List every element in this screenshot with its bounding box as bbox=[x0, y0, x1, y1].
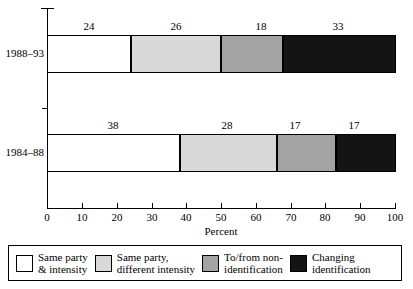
x-axis-tick-80 bbox=[325, 203, 326, 209]
x-axis-tick-20 bbox=[117, 203, 118, 209]
legend-label-line2: & intensity bbox=[38, 263, 88, 276]
x-axis-label-40: 40 bbox=[166, 211, 206, 224]
value-label-row0-seg3: 33 bbox=[308, 20, 368, 33]
legend-label-line1: Changing bbox=[312, 251, 355, 263]
legend-label-same-party-different-intensity: Same party, different intensity bbox=[117, 251, 195, 276]
x-axis-label-80: 80 bbox=[305, 211, 345, 224]
x-axis-tick-30 bbox=[152, 203, 153, 209]
legend-item-changing-identification: Changing identification bbox=[283, 251, 371, 276]
value-label-row0-seg2: 18 bbox=[231, 20, 291, 33]
legend-swatch-black-icon bbox=[290, 255, 307, 272]
legend-label-line1: Same party bbox=[38, 251, 88, 263]
value-label-row1-seg2: 17 bbox=[265, 119, 325, 132]
bar-segment-same-party-different-intensity bbox=[180, 134, 277, 172]
x-axis-tick-100 bbox=[395, 203, 396, 209]
bar-segment-to-from-non-identification bbox=[221, 35, 283, 73]
bar-segment-same-party-different-intensity bbox=[131, 35, 221, 73]
legend-label-changing-identification: Changing identification bbox=[312, 251, 371, 276]
bar-segment-changing-identification bbox=[283, 35, 396, 73]
bar-segment-same-party-intensity bbox=[47, 134, 180, 172]
legend-label-line1: Same party, bbox=[117, 251, 169, 263]
x-axis-tick-40 bbox=[186, 203, 187, 209]
chart-legend: Same party & intensity Same party, diffe… bbox=[8, 245, 402, 281]
legend-label-to-from-non-identification: To/from non- identification bbox=[224, 251, 283, 276]
value-label-row1-seg0: 38 bbox=[83, 119, 143, 132]
value-label-row0-seg0: 24 bbox=[59, 20, 119, 33]
legend-item-same-party-different-intensity: Same party, different intensity bbox=[88, 251, 195, 276]
value-label-row0-seg1: 26 bbox=[146, 20, 206, 33]
x-axis-tick-50 bbox=[221, 203, 222, 209]
x-axis-label-50: 50 bbox=[201, 211, 241, 224]
x-axis-label-100: 100 bbox=[375, 211, 413, 224]
legend-label-line2: identification bbox=[224, 263, 283, 276]
bar-segment-same-party-intensity bbox=[47, 35, 131, 73]
x-axis-tick-60 bbox=[256, 203, 257, 209]
x-axis-tick-90 bbox=[360, 203, 361, 209]
legend-swatch-light-gray-icon bbox=[95, 255, 112, 272]
x-axis-label-20: 20 bbox=[97, 211, 137, 224]
category-label-1988-93: 1988–93 bbox=[0, 47, 44, 60]
stacked-bar-chart: 1988–93 1984–88 24 26 18 33 38 28 17 17 … bbox=[0, 0, 413, 289]
legend-label-line2: different intensity bbox=[117, 263, 195, 276]
bar-segment-changing-identification bbox=[336, 134, 396, 172]
legend-swatch-white-icon bbox=[16, 255, 33, 272]
x-axis-label-10: 10 bbox=[62, 211, 102, 224]
y-axis-tick-middle bbox=[42, 108, 48, 109]
legend-label-line1: To/from non- bbox=[224, 251, 283, 263]
legend-item-to-from-non-identification: To/from non- identification bbox=[195, 251, 283, 276]
x-axis-label-90: 90 bbox=[340, 211, 380, 224]
legend-item-same-party-intensity: Same party & intensity bbox=[9, 251, 88, 276]
legend-label-line2: identification bbox=[312, 263, 371, 276]
x-axis-label-60: 60 bbox=[236, 211, 276, 224]
legend-swatch-mid-gray-icon bbox=[202, 255, 219, 272]
x-axis-tick-0 bbox=[47, 203, 48, 209]
x-axis-tick-70 bbox=[291, 203, 292, 209]
bar-segment-to-from-non-identification bbox=[277, 134, 336, 172]
legend-label-same-party-intensity: Same party & intensity bbox=[38, 251, 88, 276]
value-label-row1-seg3: 17 bbox=[324, 119, 384, 132]
x-axis-label-0: 0 bbox=[27, 211, 67, 224]
value-label-row1-seg1: 28 bbox=[197, 119, 257, 132]
x-axis-title: Percent bbox=[47, 225, 395, 238]
category-label-1984-88: 1984–88 bbox=[0, 146, 44, 159]
x-axis-tick-10 bbox=[82, 203, 83, 209]
